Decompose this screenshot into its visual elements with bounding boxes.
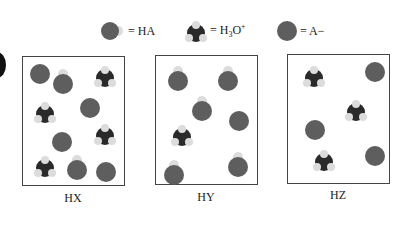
anion-molecule-icon: [364, 145, 386, 171]
anion-molecule-icon: [79, 97, 101, 123]
box-label-hz: HZ: [308, 188, 368, 203]
legend-label-hydronium-sup: +: [241, 22, 246, 31]
anion-molecule-icon: [51, 131, 73, 157]
ha-molecule-icon: [100, 21, 126, 41]
hydronium-molecule-icon: [170, 124, 194, 152]
hydronium-molecule-icon: [93, 123, 117, 151]
beaker-box-hy: [155, 55, 258, 185]
hydronium-molecule-icon: [33, 155, 57, 183]
ha-molecule-icon: [216, 66, 240, 96]
ha-molecule-icon: [51, 69, 75, 99]
anion-molecule-icon: [95, 161, 117, 187]
left-edge-partial-circle: [0, 52, 6, 78]
legend-label-ha: = HA: [128, 24, 155, 39]
legend-item-hydronium: = H3O+: [184, 18, 246, 44]
box-label-hx: HX: [43, 191, 103, 206]
hydronium-molecule-icon: [302, 65, 326, 93]
box-label-hy: HY: [176, 190, 236, 205]
legend-item-anion: = A−: [276, 18, 325, 44]
legend-label-hydronium-o: O: [232, 23, 241, 37]
anion-molecule-icon: [364, 61, 386, 87]
legend-label-hydronium-h: = H: [210, 23, 228, 37]
hydronium-molecule-icon: [344, 99, 368, 127]
beaker-box-hx: [22, 56, 125, 186]
hydronium-molecule-icon: [312, 149, 336, 177]
legend-label-anion: = A−: [300, 24, 325, 39]
ha-molecule-icon: [190, 96, 214, 126]
anion-molecule-icon: [228, 110, 250, 136]
hydronium-molecule-icon: [93, 65, 117, 93]
anion-molecule-icon: [304, 119, 326, 145]
legend-item-ha: = HA: [100, 18, 155, 44]
ha-molecule-icon: [226, 152, 250, 182]
ha-molecule-icon: [166, 66, 190, 96]
beaker-box-hz: [287, 54, 390, 184]
legend-label-hydronium: = H3O+: [210, 22, 246, 39]
anion-molecule-icon: [276, 20, 298, 42]
ha-molecule-icon: [162, 160, 186, 190]
anion-molecule-icon: [29, 63, 51, 89]
ha-molecule-icon: [65, 155, 89, 185]
hydronium-molecule-icon: [184, 19, 208, 43]
hydronium-molecule-icon: [33, 101, 57, 129]
legend: = HA = H3O+ = A−: [0, 18, 397, 48]
